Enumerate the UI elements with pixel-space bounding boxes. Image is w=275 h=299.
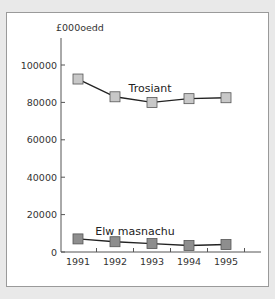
x-tick-label: 1995 — [214, 256, 238, 267]
x-tick-label: 1992 — [103, 256, 127, 267]
data-point-marker — [110, 92, 120, 102]
series-label: Trosiant — [128, 82, 173, 95]
data-point-marker — [73, 74, 83, 84]
data-point-marker — [147, 97, 157, 107]
y-tick-label: 60000 — [27, 134, 57, 145]
y-tick-label: 100000 — [21, 60, 57, 71]
data-point-marker — [110, 237, 120, 247]
y-axis-label: £000oedd — [56, 22, 104, 33]
line-chart: £000oedd02000040000600008000010000019911… — [0, 0, 275, 299]
y-tick-label: 0 — [51, 247, 57, 258]
data-point-marker — [73, 234, 83, 244]
data-point-marker — [221, 240, 231, 250]
y-tick-label: 20000 — [27, 209, 57, 220]
data-point-marker — [184, 94, 194, 104]
y-tick-label: 40000 — [27, 172, 57, 183]
data-point-marker — [221, 93, 231, 103]
series-label: Elw masnachu — [95, 225, 174, 238]
x-tick-label: 1991 — [66, 256, 90, 267]
y-tick-label: 80000 — [27, 97, 57, 108]
data-point-marker — [147, 239, 157, 249]
x-tick-label: 1993 — [140, 256, 164, 267]
data-point-marker — [184, 240, 194, 250]
x-tick-label: 1994 — [177, 256, 201, 267]
